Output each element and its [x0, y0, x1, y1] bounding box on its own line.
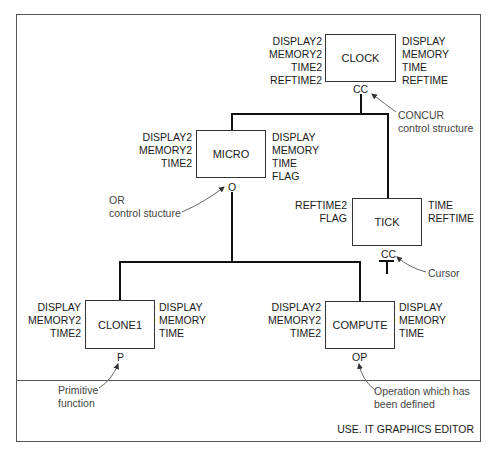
annotation-arrows — [0, 0, 494, 455]
arrow-or-icon — [182, 187, 224, 212]
arrow-cursor-icon — [397, 257, 426, 272]
arrow-concur-icon — [372, 94, 396, 112]
arrow-primitive-icon — [99, 364, 118, 388]
editor-title: USE. IT GRAPHICS EDITOR — [337, 423, 474, 435]
arrow-operation-icon — [359, 364, 375, 390]
